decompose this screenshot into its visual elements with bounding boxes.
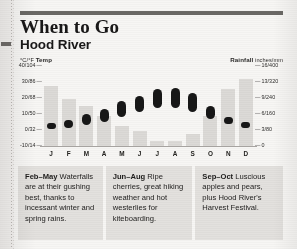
right-tick-label: 3/80	[261, 126, 272, 132]
left-tick: 30/86—	[22, 78, 42, 84]
tick-dash: —	[255, 126, 260, 132]
season-note: Sep–Oct Luscious apples and pears, plus …	[195, 166, 283, 240]
chart-month-column	[79, 66, 93, 146]
right-tick: —16/400	[255, 62, 278, 68]
tick-dash: —	[255, 94, 260, 100]
season-note-range: Feb–May	[25, 172, 58, 181]
month-label: M	[115, 150, 129, 160]
right-tick-label: 13/320	[261, 78, 278, 84]
right-axis-label: Rainfall	[230, 56, 253, 63]
month-label: N	[221, 150, 235, 160]
tick-dash: —	[37, 62, 42, 68]
season-note: Jun–Aug Ripe cherries, great hiking weat…	[106, 166, 193, 240]
tick-dash: —	[37, 110, 42, 116]
temperature-range-marker	[82, 114, 91, 125]
right-tick-label: 16/400	[261, 62, 278, 68]
chart-month-column	[239, 66, 253, 146]
rainfall-bar	[44, 86, 58, 146]
left-tick: 40/104—	[19, 62, 42, 68]
temperature-range-marker	[224, 117, 233, 124]
left-tick: -10/14—	[20, 142, 42, 148]
chart-baseline	[40, 146, 257, 147]
margin-dash-mark	[1, 42, 11, 46]
right-tick-label: 0	[261, 142, 264, 148]
chart-month-column	[186, 66, 200, 146]
chart-month-column	[221, 66, 235, 146]
temperature-range-marker	[100, 109, 109, 122]
right-axis-ticks: —16/400—13/320—9/240—6/160—3/80—0	[255, 62, 295, 150]
season-note: Feb–May Waterfalls are at their gushing …	[18, 166, 103, 240]
month-label: A	[168, 150, 182, 160]
left-tick-label: 20/68	[22, 94, 36, 100]
month-label: M	[79, 150, 93, 160]
page-subtitle: Hood River	[20, 37, 91, 52]
month-label: O	[203, 150, 217, 160]
chart-month-column	[150, 66, 164, 146]
month-label: A	[97, 150, 111, 160]
left-axis-ticks: 40/104—30/86—20/68—10/50—0/32—-10/14—	[14, 62, 42, 150]
right-tick: —13/320	[255, 78, 278, 84]
page-binding-edge	[11, 0, 12, 249]
tick-dash: —	[255, 142, 260, 148]
month-label: D	[239, 150, 253, 160]
tick-dash: —	[37, 94, 42, 100]
month-axis-labels: JFMAMJJASOND	[44, 150, 253, 160]
month-label: J	[150, 150, 164, 160]
rainfall-bar	[186, 134, 200, 147]
right-tick-label: 9/240	[261, 94, 275, 100]
left-tick-label: -10/14	[20, 142, 36, 148]
left-tick-label: 40/104	[19, 62, 36, 68]
tick-dash: —	[37, 142, 42, 148]
chart-month-column	[44, 66, 58, 146]
month-label: S	[186, 150, 200, 160]
page-title: When to Go	[20, 16, 119, 38]
season-note-range: Sep–Oct	[202, 172, 233, 181]
temperature-range-marker	[188, 93, 197, 111]
chart-month-column	[62, 66, 76, 146]
tick-dash: —	[255, 62, 260, 68]
tick-dash: —	[255, 110, 260, 116]
chart-month-column	[203, 66, 217, 146]
season-notes: Feb–May Waterfalls are at their gushing …	[18, 166, 283, 240]
month-label: F	[62, 150, 76, 160]
season-note-range: Jun–Aug	[113, 172, 146, 181]
right-tick-label: 6/160	[261, 110, 275, 116]
rainfall-bar	[239, 79, 253, 147]
header-rule	[20, 11, 283, 15]
left-tick: 0/32—	[25, 126, 42, 132]
rainfall-bar	[115, 126, 129, 146]
left-tick: 10/50—	[22, 110, 42, 116]
rainfall-bar	[133, 131, 147, 146]
right-tick: —0	[255, 142, 265, 148]
tick-dash: —	[37, 78, 42, 84]
month-label: J	[44, 150, 58, 160]
chart-month-column	[115, 66, 129, 146]
chart-month-column	[97, 66, 111, 146]
right-tick: —9/240	[255, 94, 275, 100]
right-tick: —6/160	[255, 110, 275, 116]
chart-month-column	[168, 66, 182, 146]
temperature-range-marker	[135, 96, 144, 111]
left-tick-label: 0/32	[25, 126, 36, 132]
right-tick: —3/80	[255, 126, 272, 132]
tick-dash: —	[37, 126, 42, 132]
chart-month-column	[133, 66, 147, 146]
page: When to Go Hood River °C/°F Temp Rainfal…	[0, 0, 297, 249]
left-tick-label: 30/86	[22, 78, 36, 84]
tick-dash: —	[255, 78, 260, 84]
chart-bars	[44, 66, 253, 146]
temperature-range-marker	[47, 123, 56, 129]
rainfall-bar	[79, 106, 93, 146]
temperature-range-marker	[64, 120, 73, 127]
temperature-range-marker	[117, 101, 126, 117]
left-tick-label: 10/50	[22, 110, 36, 116]
chart-plot-area	[44, 66, 253, 146]
month-label: J	[133, 150, 147, 160]
temperature-range-marker	[206, 106, 215, 119]
temperature-range-marker	[153, 89, 162, 107]
rainfall-bar	[203, 116, 217, 146]
temperature-range-marker	[171, 88, 180, 107]
left-tick: 20/68—	[22, 94, 42, 100]
